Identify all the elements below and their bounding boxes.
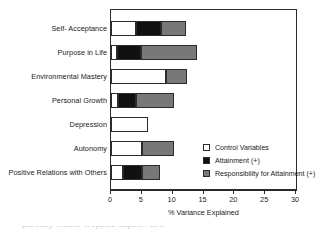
x-axis-tick [141, 190, 142, 194]
y-axis-label: Personal Growth [0, 97, 107, 105]
y-axis-label: Purpose in Life [0, 49, 107, 57]
bar-segment-attain [117, 45, 141, 60]
y-axis-label: Environmental Mastery [0, 73, 107, 81]
bar-segment-attain [123, 165, 142, 180]
legend-item: Control Variables [203, 141, 333, 154]
legend-item: Responsibility for Attainment (+) [203, 167, 333, 180]
cropped-caption-text: partially visible cropped caption text [22, 226, 164, 230]
bar-segment-resp [136, 93, 174, 108]
x-axis-line [110, 190, 297, 191]
x-axis-tick-label: 0 [99, 196, 121, 204]
bar-segment-attain [118, 93, 136, 108]
bar-segment-control [111, 165, 123, 180]
bar-segment-resp [161, 21, 186, 36]
chart-figure: Self- Acceptance Purpose in Life Environ… [0, 0, 334, 233]
x-axis-tick-label: 15 [192, 196, 214, 204]
y-axis-label: Autonomy [0, 145, 107, 153]
y-axis-label: Positive Relations with Others [0, 169, 107, 177]
legend-swatch-responsibility [203, 170, 210, 177]
x-axis-tick [295, 190, 296, 194]
bar-segment-resp [166, 69, 187, 84]
x-axis-tick-label: 10 [161, 196, 183, 204]
legend-label: Attainment (+) [215, 157, 260, 165]
x-axis-title: % Variance Explained [110, 208, 297, 217]
y-axis-label: Depression [0, 121, 107, 129]
bar-segment-control [111, 93, 118, 108]
x-axis-tick [233, 190, 234, 194]
bar-segment-attain [136, 21, 161, 36]
x-axis-tick-label: 5 [130, 196, 152, 204]
bar-segment-control [111, 117, 148, 132]
bar-segment-resp [142, 141, 174, 156]
legend-item: Attainment (+) [203, 154, 333, 167]
x-axis-tick [264, 190, 265, 194]
x-axis-tick [203, 190, 204, 194]
x-axis-tick-label: 25 [253, 196, 275, 204]
x-axis-tick [172, 190, 173, 194]
bar-segment-resp [141, 45, 197, 60]
x-axis-tick-label: 20 [222, 196, 244, 204]
cropped-caption-strip: partially visible cropped caption text [0, 226, 334, 233]
legend-swatch-control-variables [203, 144, 210, 151]
legend: Control Variables Attainment (+) Respons… [203, 141, 333, 180]
y-axis-label-group: Self- Acceptance Purpose in Life Environ… [0, 9, 107, 190]
y-axis-label: Self- Acceptance [0, 25, 107, 33]
x-axis-tick [110, 190, 111, 194]
legend-label: Responsibility for Attainment (+) [215, 170, 315, 178]
bar-segment-control [111, 21, 136, 36]
legend-swatch-attainment [203, 157, 210, 164]
bar-segment-resp [142, 165, 161, 180]
legend-label: Control Variables [215, 144, 269, 152]
bar-segment-control [111, 69, 166, 84]
x-axis-tick-label: 30 [284, 196, 306, 204]
bar-segment-control [111, 141, 142, 156]
